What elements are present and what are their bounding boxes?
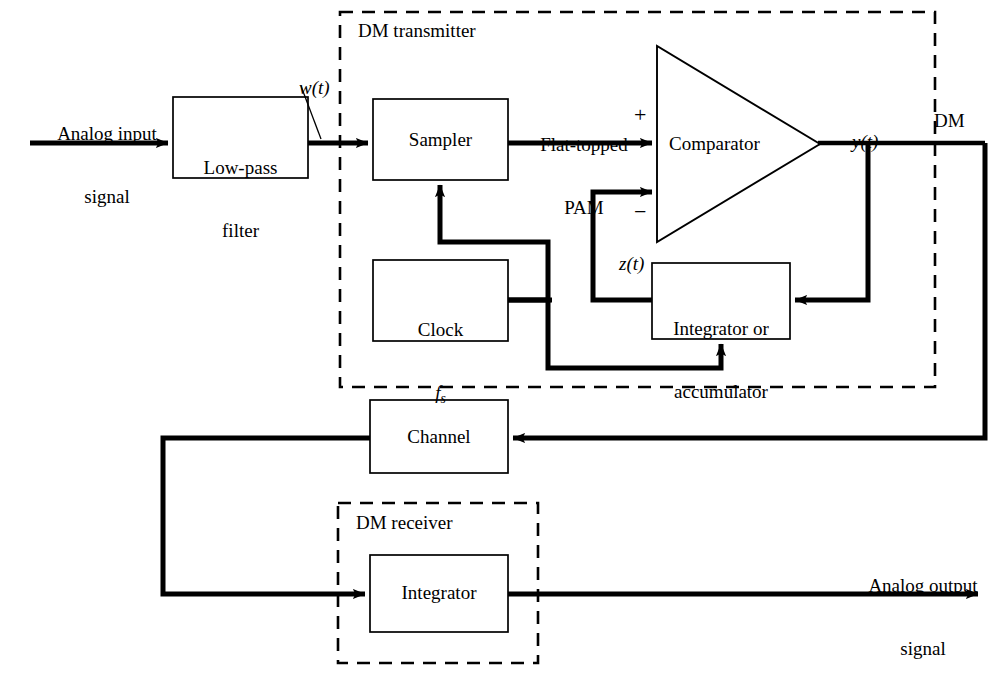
y-of-t-label: y(t) — [833, 110, 878, 174]
dm-signal-label: DM — [934, 110, 965, 131]
integrator-accumulator-label: Integrator or accumulator — [652, 275, 790, 445]
channel-label: Channel — [370, 426, 508, 447]
comparator-plus-input-label: + — [634, 103, 646, 128]
figure-canvas: Analog input signal Low-pass filter w(t)… — [0, 0, 998, 686]
clock-label: Clock fs — [373, 276, 508, 449]
analog-input-label: Analog input signal — [22, 80, 192, 250]
w-of-t-label: w(t) — [280, 56, 330, 120]
comparator-minus-input-label: − — [634, 200, 646, 225]
receiver-integrator-label: Integrator — [370, 582, 508, 603]
lowpass-filter-label: Low-pass filter — [173, 114, 308, 284]
comparator-label: Comparator — [669, 133, 760, 154]
analog-output-label: Analog output signal — [848, 532, 998, 686]
dm-receiver-label: DM receiver — [356, 512, 453, 533]
dm-transmitter-label: DM transmitter — [358, 20, 476, 41]
sampler-label: Sampler — [373, 129, 508, 150]
z-of-t-label: z(t) — [600, 232, 644, 296]
